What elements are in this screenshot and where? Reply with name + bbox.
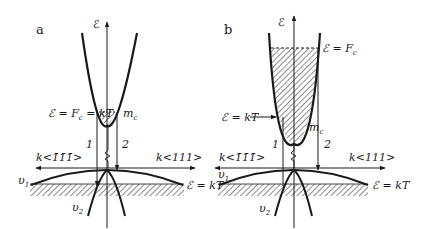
k-left-label-a: k<1̄1̄1̄> — [36, 151, 82, 164]
transition-1-label-a: 1 — [86, 138, 93, 151]
band-v2-label-b: υ2 — [259, 202, 271, 217]
thermal-region-a — [30, 184, 184, 196]
effective-mass-label-a: mc — [123, 107, 137, 122]
thermal-region-b — [218, 184, 368, 196]
k-right-label-a: k<111> — [156, 151, 202, 164]
transition-1-label-b: 1 — [272, 138, 279, 151]
panel-label-a: a — [36, 22, 44, 37]
thermal-label-b: ℰ = kT — [372, 179, 411, 192]
effective-mass-label-b: mc — [309, 121, 323, 136]
fermi-label-a: ℰ = Fc = kT — [48, 107, 115, 122]
panel-a: a ℰ ℰ = Fc = kT mc 1 2 k<1̄1̄1̄> k<111> … — [18, 18, 225, 228]
band-diagram: a ℰ ℰ = Fc = kT mc 1 2 k<1̄1̄1̄> k<111> … — [0, 0, 422, 229]
fermi-label-b: ℰ = Fc — [322, 42, 357, 57]
kt-label-b: ℰ = kT — [221, 111, 260, 124]
panel-label-b: b — [224, 22, 232, 37]
panel-b: b ℰ ℰ = Fc ℰ = kT mc 1 2 k<1̄1̄1̄> k<111… — [215, 16, 411, 228]
transition-2-label-a: 2 — [121, 138, 129, 151]
k-left-label-b: k<1̄1̄1̄> — [219, 151, 265, 164]
band-v1-label-a: υ1 — [18, 174, 29, 189]
transition-2-label-b: 2 — [323, 138, 331, 151]
energy-axis-label-a: ℰ — [93, 18, 100, 31]
band-v1-label-b: υ1 — [218, 168, 229, 183]
band-structure-figure: a ℰ ℰ = Fc = kT mc 1 2 k<1̄1̄1̄> k<111> … — [0, 0, 422, 229]
k-right-label-b: k<111> — [349, 151, 395, 164]
band-v2-label-a: υ2 — [72, 201, 84, 216]
energy-axis-label-b: ℰ — [278, 16, 285, 29]
